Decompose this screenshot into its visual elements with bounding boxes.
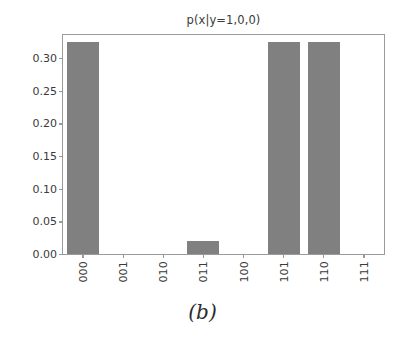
x-tick-label: 100 xyxy=(237,261,250,283)
y-tick-mark xyxy=(59,58,63,59)
bar xyxy=(308,42,340,254)
x-tick-label: 000 xyxy=(77,261,90,283)
x-tick-mark xyxy=(363,254,364,258)
bar xyxy=(187,241,219,254)
plot-area: 0.000.050.100.150.200.250.30 00000101001… xyxy=(62,34,385,255)
y-tick-label: 0.05 xyxy=(33,215,58,228)
x-tick-label: 101 xyxy=(277,261,290,283)
x-tick-mark xyxy=(82,254,83,258)
y-tick-mark xyxy=(59,189,63,190)
bar xyxy=(268,42,300,254)
y-tick-label: 0.10 xyxy=(33,182,58,195)
y-tick-mark xyxy=(59,254,63,255)
bars-layer xyxy=(63,35,384,254)
y-tick-mark xyxy=(59,123,63,124)
y-tick-mark xyxy=(59,91,63,92)
figure-caption: (b) xyxy=(0,300,405,324)
x-tick-label: 111 xyxy=(357,261,370,283)
y-tick-label: 0.15 xyxy=(33,150,58,163)
y-tick-label: 0.00 xyxy=(33,248,58,261)
chart-title: p(x|y=1,0,0) xyxy=(62,13,385,27)
x-tick-label: 011 xyxy=(197,261,210,283)
x-tick-label: 010 xyxy=(157,261,170,283)
y-tick-mark xyxy=(59,156,63,157)
bar xyxy=(67,42,99,254)
x-tick-mark xyxy=(323,254,324,258)
x-tick-mark xyxy=(163,254,164,258)
x-tick-label: 110 xyxy=(317,261,330,283)
x-tick-mark xyxy=(203,254,204,258)
y-tick-label: 0.25 xyxy=(33,84,58,97)
x-tick-mark xyxy=(283,254,284,258)
x-tick-label: 001 xyxy=(117,261,130,283)
y-tick-mark xyxy=(59,221,63,222)
x-tick-mark xyxy=(243,254,244,258)
y-tick-label: 0.20 xyxy=(33,117,58,130)
figure-panel-b: p(x|y=1,0,0) 0.000.050.100.150.200.250.3… xyxy=(0,0,405,343)
x-tick-mark xyxy=(123,254,124,258)
y-tick-label: 0.30 xyxy=(33,52,58,65)
